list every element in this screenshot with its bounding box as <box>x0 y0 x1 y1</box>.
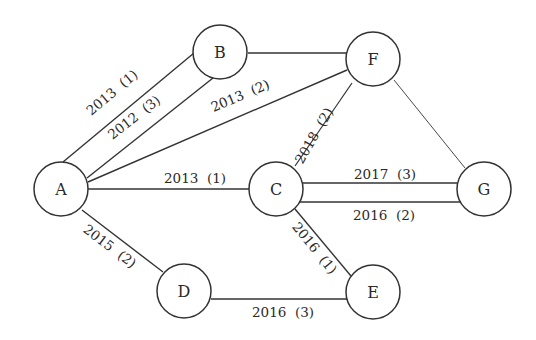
node-g: G <box>457 162 511 216</box>
edge-label: 2016 (1) <box>289 219 340 277</box>
node-a: A <box>34 162 88 216</box>
nodes-layer: ABFCGDE <box>34 25 511 319</box>
edge-label: 2016 (3) <box>252 304 314 320</box>
node-d: D <box>157 264 211 318</box>
edge-label: 2016 (2) <box>353 207 415 223</box>
node-label: A <box>54 180 67 199</box>
edge-f-g <box>394 80 465 168</box>
graph-diagram: 2013 (1)2012 (3)2013 (2)2013 (1)2018 (2)… <box>0 0 536 340</box>
node-b: B <box>193 25 247 79</box>
node-e: E <box>346 265 400 319</box>
graph-svg: 2013 (1)2012 (3)2013 (2)2013 (1)2018 (2)… <box>0 0 536 340</box>
node-label: F <box>367 50 378 69</box>
edge-label: 2017 (3) <box>354 166 416 182</box>
node-label: G <box>478 180 491 199</box>
node-label: C <box>270 180 282 199</box>
node-f: F <box>346 32 400 86</box>
node-label: B <box>214 43 226 62</box>
edge-label: 2013 (1) <box>164 170 226 186</box>
edge-label: 2018 (2) <box>291 105 336 167</box>
edge-label: 2013 (2) <box>208 76 271 115</box>
node-label: E <box>367 283 379 302</box>
node-label: D <box>178 282 191 301</box>
node-c: C <box>249 162 303 216</box>
edge-label: 2015 (2) <box>80 221 139 271</box>
